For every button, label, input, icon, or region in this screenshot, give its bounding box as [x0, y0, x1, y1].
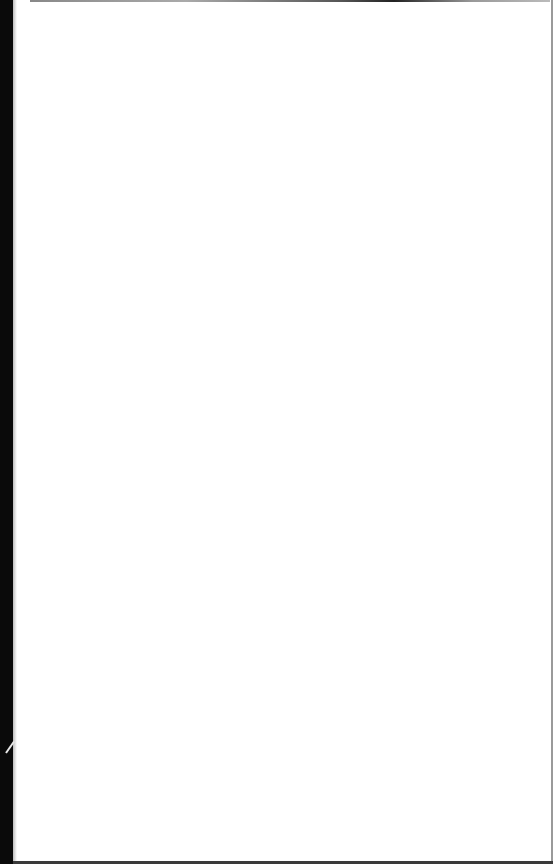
blank-page: [17, 2, 551, 861]
top-rule: [30, 0, 550, 2]
binding-edge: [0, 0, 13, 864]
